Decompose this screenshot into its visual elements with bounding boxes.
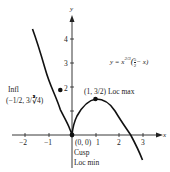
local-max-label: (1, 3/2) Loc max — [84, 87, 134, 96]
x-tick-label-minus1: −1 — [44, 138, 52, 147]
x-tick-label-3: 3 — [141, 138, 145, 147]
equation-base: y = x — [110, 58, 124, 66]
y-tick-label-4: 4 — [64, 35, 68, 44]
y-axis-arrow-icon — [70, 15, 75, 22]
x-tick-label-1: 1 — [96, 138, 100, 147]
inflection-point — [58, 88, 63, 93]
y-tick-label-3: 3 — [64, 59, 68, 68]
local-max-point — [93, 97, 98, 102]
x-tick-label-minus2: −2 — [19, 138, 27, 147]
y-axis-label: y — [70, 5, 73, 14]
origin-label: (0, 0) — [75, 138, 91, 147]
x-axis-arrow-icon — [156, 133, 163, 138]
y-tick-label-2: 2 — [64, 84, 68, 93]
equation-label: y = x2/3(52− x) — [110, 54, 148, 68]
equation-tail: − x) — [136, 58, 148, 66]
inflection-coords: (−1/2, 3/∛4) — [6, 96, 43, 105]
inflection-label: Infl — [8, 85, 19, 94]
x-tick-label-2: 2 — [117, 138, 121, 147]
cusp-point — [70, 133, 75, 138]
local-min-label: Loc min — [74, 158, 99, 167]
cusp-label: Cusp — [74, 148, 89, 157]
x-axis-label: x — [163, 131, 166, 140]
